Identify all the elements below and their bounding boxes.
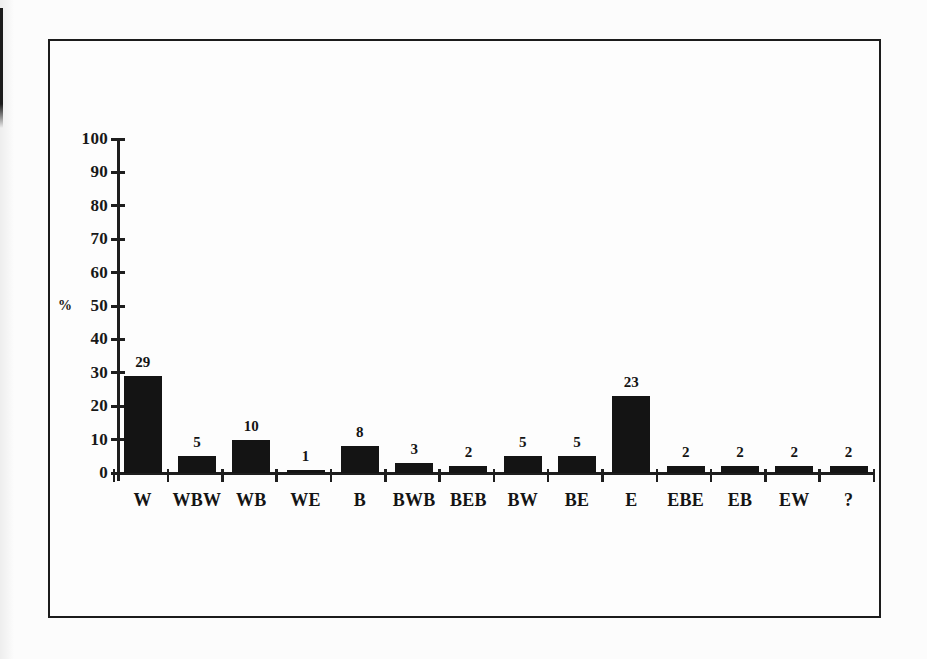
bar-chart: % 010203040506070809010029W5WBW10WB1WE8B… (0, 0, 927, 659)
category-label-B: B (333, 491, 387, 509)
category-label-BWB: BWB (387, 491, 441, 509)
y-tick-label-80: 80 (46, 197, 108, 214)
bar-BE (558, 456, 596, 473)
y-tick-label-60: 60 (46, 264, 108, 281)
scanned-page: % 010203040506070809010029W5WBW10WB1WE8B… (0, 0, 927, 659)
x-tick-9 (601, 469, 604, 482)
value-label-EBE: 2 (662, 445, 710, 460)
y-tick-50 (111, 305, 125, 308)
bar-EBE (667, 466, 705, 473)
value-label-EB: 2 (716, 445, 764, 460)
y-tick-label-50: 50 (46, 297, 108, 314)
x-tick-11 (710, 469, 713, 482)
value-label-WB: 10 (227, 419, 275, 434)
y-tick-label-10: 10 (46, 431, 108, 448)
y-tick-label-100: 100 (46, 130, 108, 147)
bar-E (612, 396, 650, 473)
y-tick-90 (111, 171, 125, 174)
x-tick-3 (275, 469, 278, 482)
y-tick-70 (111, 238, 125, 241)
value-label-WE: 1 (282, 449, 330, 464)
category-label-EW: EW (767, 491, 821, 509)
category-label-EB: EB (713, 491, 767, 509)
x-tick-7 (493, 469, 496, 482)
x-tick-6 (438, 469, 441, 482)
x-tick-13 (818, 469, 821, 482)
bar-BWB (395, 463, 433, 473)
y-axis-line (117, 139, 120, 481)
value-label-BW: 5 (499, 435, 547, 450)
x-tick-0 (113, 469, 116, 482)
y-tick-label-0: 0 (46, 464, 108, 481)
bar-WE (287, 470, 325, 473)
x-tick-5 (384, 469, 387, 482)
value-label-BE: 5 (553, 435, 601, 450)
value-label-?: 2 (825, 445, 873, 460)
value-label-W: 29 (119, 355, 167, 370)
category-label-E: E (604, 491, 658, 509)
value-label-BEB: 2 (444, 445, 492, 460)
category-label-BW: BW (496, 491, 550, 509)
x-tick-14 (873, 469, 876, 482)
y-tick-label-70: 70 (46, 230, 108, 247)
category-label-EBE: EBE (659, 491, 713, 509)
value-label-E: 23 (607, 375, 655, 390)
bar-BEB (449, 466, 487, 473)
category-label-WBW: WBW (170, 491, 224, 509)
category-label-?: ? (821, 491, 875, 509)
y-tick-label-40: 40 (46, 330, 108, 347)
y-tick-40 (111, 338, 125, 341)
y-tick-100 (111, 138, 125, 141)
x-tick-12 (764, 469, 767, 482)
x-tick-4 (330, 469, 333, 482)
x-tick-10 (656, 469, 659, 482)
y-tick-60 (111, 271, 125, 274)
value-label-EW: 2 (770, 445, 818, 460)
category-label-BE: BE (550, 491, 604, 509)
bar-? (830, 466, 868, 473)
bar-WBW (178, 456, 216, 473)
y-tick-30 (111, 371, 125, 374)
bar-B (341, 446, 379, 473)
category-label-WB: WB (224, 491, 278, 509)
bar-EW (775, 466, 813, 473)
category-label-BEB: BEB (441, 491, 495, 509)
bar-EB (721, 466, 759, 473)
y-tick-label-90: 90 (46, 163, 108, 180)
bar-BW (504, 456, 542, 473)
y-tick-label-30: 30 (46, 364, 108, 381)
x-tick-2 (221, 469, 224, 482)
bar-W (124, 376, 162, 473)
category-label-WE: WE (278, 491, 332, 509)
category-label-W: W (116, 491, 170, 509)
bar-WB (232, 440, 270, 473)
value-label-WBW: 5 (173, 435, 221, 450)
x-tick-8 (547, 469, 550, 482)
y-tick-80 (111, 204, 125, 207)
y-tick-label-20: 20 (46, 397, 108, 414)
x-tick-1 (167, 469, 170, 482)
value-label-B: 8 (336, 425, 384, 440)
value-label-BWB: 3 (390, 442, 438, 457)
